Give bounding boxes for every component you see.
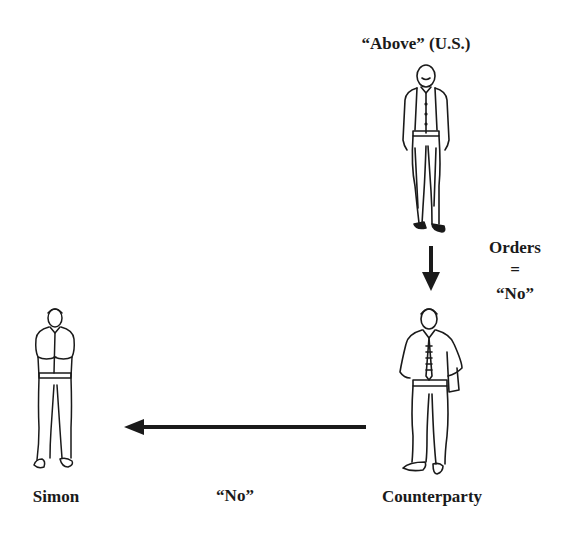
orders-label: Orders bbox=[475, 238, 555, 258]
no-label-horizontal: “No” bbox=[200, 486, 270, 506]
simon-label: Simon bbox=[18, 487, 94, 507]
simon-person-figure bbox=[30, 305, 80, 470]
counterparty-label: Counterparty bbox=[364, 487, 500, 507]
above-label: “Above” (U.S.) bbox=[360, 34, 472, 54]
no-arrow-left bbox=[124, 417, 366, 437]
no-label-vertical: “No” bbox=[475, 284, 555, 304]
counterparty-person-figure bbox=[395, 302, 475, 477]
equals-label: = bbox=[475, 260, 555, 280]
orders-arrow-down bbox=[420, 246, 442, 292]
above-person-figure bbox=[395, 58, 455, 238]
